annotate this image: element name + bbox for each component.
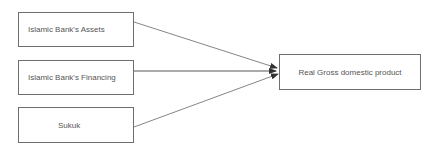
node-islamic-bank-financing: Islamic Bank's Financing (18, 60, 134, 95)
edge-sukuk-to-gdp (134, 74, 278, 127)
node-label: Sukuk (58, 121, 80, 130)
node-real-gdp: Real Gross domestic product (279, 54, 421, 90)
node-label: Islamic Bank's Assets (28, 25, 105, 34)
node-sukuk: Sukuk (18, 107, 134, 143)
node-label: Islamic Bank's Financing (28, 73, 116, 82)
edge-assets-to-gdp (134, 22, 277, 68)
node-islamic-bank-assets: Islamic Bank's Assets (18, 12, 134, 47)
node-label: Real Gross domestic product (298, 68, 401, 77)
